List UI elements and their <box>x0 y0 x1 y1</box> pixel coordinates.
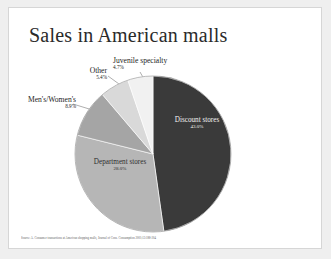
slide-canvas: Sales in American malls Discount stores … <box>8 7 322 249</box>
callout-other: Other 5.4% <box>59 67 107 81</box>
slice-label-discount-pct: 43.0% <box>169 124 225 130</box>
pie-slices <box>75 76 231 232</box>
pie-slice <box>153 76 231 231</box>
callout-other-pct: 5.4% <box>59 75 107 80</box>
callout-juvenile-specialty-pct: 4.7% <box>113 65 183 70</box>
callout-mens-womens: Men's/Women's 8.9% <box>19 96 76 110</box>
pie-svg <box>9 8 322 249</box>
slice-label-discount: Discount stores 43.0% <box>169 116 225 130</box>
callout-mens-womens-pct: 8.9% <box>19 104 76 109</box>
source-citation: Source: A. Consumer transactions at Amer… <box>21 235 156 240</box>
slice-label-department: Department stores 28.0% <box>89 158 151 172</box>
pie-chart: Discount stores 43.0% Department stores … <box>9 8 322 249</box>
slice-label-department-pct: 28.0% <box>89 166 151 172</box>
callout-juvenile-specialty: Juvenile specialty 4.7% <box>113 57 183 71</box>
slice-label-discount-line1: Discount stores <box>169 116 225 124</box>
slice-label-department-line1: Department stores <box>89 158 151 166</box>
